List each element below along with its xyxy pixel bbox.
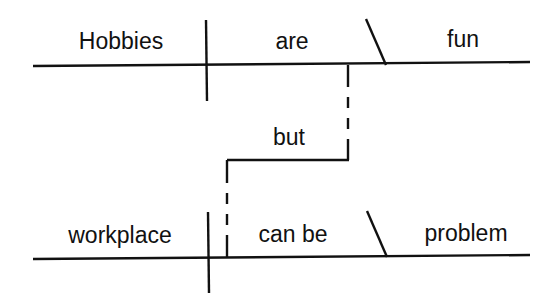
label-top-complement: fun [447,28,479,51]
label-bottom-complement: problem [424,222,507,245]
bottom-predicate-adjective-slash [367,211,387,257]
label-bottom-subject: workplace [68,224,172,247]
top-subject-verb-divider [206,20,207,101]
label-bottom-verb: can be [258,223,327,246]
bottom-subject-verb-divider [208,212,209,293]
label-top-verb: are [275,30,308,53]
label-top-subject: Hobbies [79,30,163,53]
bottom-clause-baseline [33,255,530,259]
top-predicate-adjective-slash [366,19,386,65]
top-clause-baseline [33,62,530,66]
sentence-diagram: Hobbies are fun but workplace can be pro… [0,0,557,304]
label-conjunction: but [273,126,305,149]
